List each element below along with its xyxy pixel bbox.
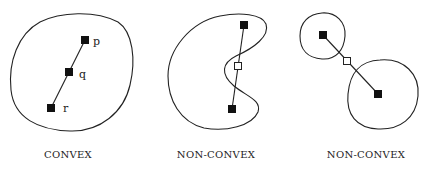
bean-region-outline	[168, 14, 267, 129]
panel-convex: p q r CONVEX	[10, 14, 132, 160]
point-p-label: p	[93, 35, 100, 48]
panel-label-convex: CONVEX	[44, 149, 93, 160]
point-r-label: r	[63, 102, 69, 115]
point-outside-marker	[235, 63, 242, 70]
panel-label-non-convex-1: NON-CONVEX	[177, 149, 256, 160]
point-q-marker	[65, 68, 73, 76]
panel-label-non-convex-2: NON-CONVEX	[327, 149, 406, 160]
point-bottom-marker	[228, 105, 236, 113]
point-r-marker	[47, 104, 55, 112]
large-blob-outline	[348, 60, 418, 129]
panel-non-convex-bean: NON-CONVEX	[168, 14, 267, 160]
panel-non-convex-disjoint: NON-CONVEX	[300, 13, 418, 160]
point-q-label: q	[79, 68, 86, 81]
convexity-diagram: p q r CONVEX NON-CONVEX NON-CONVEX	[0, 0, 431, 169]
point-top-marker	[240, 21, 248, 29]
point-small-blob-marker	[319, 31, 327, 39]
point-large-blob-marker	[374, 90, 382, 98]
point-gap-marker	[344, 58, 351, 65]
point-p-marker	[81, 36, 89, 44]
